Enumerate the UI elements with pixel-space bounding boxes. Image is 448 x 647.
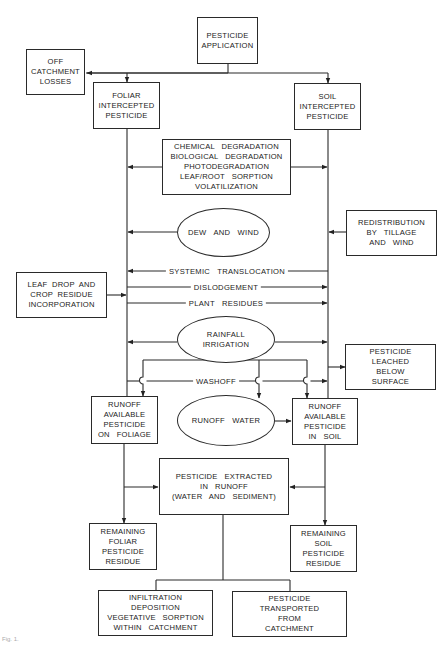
node-text: PHOTODEGRADATION	[184, 162, 269, 172]
node-text: INFILTRATION	[129, 593, 182, 603]
node-dew-and-wind: DEW AND WIND	[177, 208, 270, 257]
node-text: FROM	[278, 614, 301, 624]
node-text: FOLIAR	[109, 537, 138, 547]
node-text: SOIL	[314, 539, 332, 549]
node-text: TRANSPORTED	[260, 604, 319, 614]
node-remaining-soil-residue: REMAINING SOIL PESTICIDE RESIDUE	[290, 525, 357, 572]
node-text: CROP RESIDUE	[30, 290, 92, 300]
node-pesticide-transported: PESTICIDE TRANSPORTED FROM CATCHMENT	[232, 591, 347, 637]
node-text: LEAF DROP AND	[28, 280, 96, 290]
node-text: RUNOFF	[309, 402, 342, 412]
node-text: PESTICIDE	[303, 549, 345, 559]
node-text: REDISTRIBUTION	[358, 218, 425, 228]
node-text: LOSSES	[40, 77, 72, 87]
node-text: LEACHED	[372, 357, 409, 367]
figure-caption: Fig. 1.	[2, 636, 19, 642]
node-text: PESTICIDE EXTRACTED	[176, 472, 273, 482]
node-degradation-processes: CHEMICAL DEGRADATION BIOLOGICAL DEGRADAT…	[162, 139, 291, 195]
node-rainfall-irrigation: RAINFALL IRRIGATION	[177, 316, 275, 363]
edge-label-dislodgement: DISLODGEMENT	[191, 283, 261, 292]
node-text: DEW AND WIND	[188, 228, 259, 238]
node-text: ON FOLIAGE	[98, 430, 151, 440]
node-text: REMAINING	[301, 529, 346, 539]
node-foliar-intercepted: FOLIAR INTERCEPTED PESTICIDE	[93, 82, 160, 129]
edge-label-plant-residues: PLANT RESIDUES	[186, 299, 266, 308]
node-infiltration-deposition: INFILTRATION DEPOSITION VEGETATIVE SORPT…	[98, 590, 213, 636]
node-runoff-available-foliage: RUNOFF AVAILABLE PESTICIDE ON FOLIAGE	[91, 396, 158, 444]
edge-label-systemic-translocation: SYSTEMIC TRANSLOCATION	[166, 267, 288, 276]
node-text: FOLIAR	[112, 91, 141, 101]
node-text: PESTICIDE	[106, 111, 148, 121]
node-pesticide-extracted: PESTICIDE EXTRACTED IN RUNOFF (WATER AND…	[159, 458, 289, 515]
node-text: AND WIND	[369, 238, 414, 248]
node-soil-intercepted: SOIL INTERCEPTED PESTICIDE	[294, 83, 361, 130]
node-text: PESTICIDE	[207, 31, 249, 41]
node-text: PESTICIDE	[104, 420, 146, 430]
node-text: CATCHMENT	[265, 624, 314, 634]
node-text: DEPOSITION	[131, 603, 180, 613]
node-text: RESIDUE	[306, 559, 341, 569]
node-text: SOIL	[318, 92, 336, 102]
node-text: LEAF/ROOT SORPTION	[180, 172, 273, 182]
node-text: PESTICIDE	[370, 347, 412, 357]
node-text: RUNOFF WATER	[192, 416, 261, 426]
node-text: VOLATILIZATION	[195, 182, 258, 192]
node-text: CATCHMENT	[31, 67, 80, 77]
node-text: RUNOFF	[108, 400, 141, 410]
node-text: PESTICIDE	[102, 547, 144, 557]
node-text: INCORPORATION	[28, 300, 94, 310]
node-pesticide-application: PESTICIDE APPLICATION	[197, 17, 258, 64]
node-text: INTERCEPTED	[99, 101, 155, 111]
node-text: APPLICATION	[202, 41, 254, 51]
node-text: BELOW	[376, 367, 404, 377]
node-runoff-available-soil: RUNOFF AVAILABLE PESTICIDE IN SOIL	[292, 398, 358, 445]
node-text: RAINFALL	[207, 330, 245, 340]
node-text: WITHIN CATCHMENT	[113, 623, 197, 633]
node-text: IN SOIL	[308, 432, 341, 442]
node-off-catchment-losses: OFF CATCHMENT LOSSES	[26, 49, 85, 95]
edge-label-washoff: WASHOFF	[193, 377, 239, 386]
node-remaining-foliar-residue: REMAINING FOLIAR PESTICIDE RESIDUE	[89, 523, 157, 570]
node-text: AVAILABLE	[104, 410, 146, 420]
node-text: PESTICIDE	[269, 594, 311, 604]
node-text: RESIDUE	[105, 557, 140, 567]
node-text: (WATER AND SEDIMENT)	[172, 492, 276, 502]
pesticide-flow-diagram: PESTICIDE APPLICATION OFF CATCHMENT LOSS…	[0, 0, 448, 647]
node-text: IN RUNOFF	[200, 482, 248, 492]
node-text: INTERCEPTED	[300, 102, 356, 112]
node-text: BY TILLAGE	[367, 228, 417, 238]
node-text: VEGETATIVE SORPTION	[107, 613, 204, 623]
node-text: CHEMICAL DEGRADATION	[174, 142, 279, 152]
node-text: OFF	[48, 57, 64, 67]
node-pesticide-leached: PESTICIDE LEACHED BELOW SURFACE	[345, 344, 436, 390]
node-redistribution: REDISTRIBUTION BY TILLAGE AND WIND	[346, 210, 437, 256]
node-text: BIOLOGICAL DEGRADATION	[171, 152, 283, 162]
node-text: SURFACE	[372, 377, 409, 387]
node-text: IRRIGATION	[203, 340, 250, 350]
node-text: AVAILABLE	[304, 412, 346, 422]
node-runoff-water: RUNOFF WATER	[177, 395, 275, 446]
node-text: REMAINING	[101, 527, 146, 537]
node-text: PESTICIDE	[307, 112, 349, 122]
node-leaf-drop: LEAF DROP AND CROP RESIDUE INCORPORATION	[16, 272, 107, 318]
node-text: PESTICIDE	[304, 422, 346, 432]
